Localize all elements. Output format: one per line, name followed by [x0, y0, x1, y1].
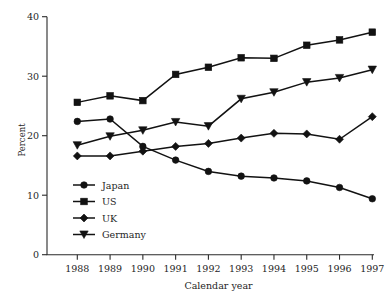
- data-point-uk-1994: [270, 129, 278, 137]
- x-tick-label: 1995: [295, 263, 319, 274]
- series-path: [77, 70, 372, 146]
- data-point-japan-1995: [303, 178, 310, 185]
- legend-marker-japan: [81, 182, 88, 189]
- legend-marker-uk: [80, 214, 88, 222]
- legend-label: Germany: [102, 229, 147, 240]
- data-point-japan-1997: [369, 195, 376, 202]
- x-tick-label: 1992: [196, 263, 220, 274]
- data-point-us-1992: [205, 64, 212, 71]
- series-layer: [73, 29, 376, 202]
- data-point-japan-1994: [271, 175, 278, 182]
- data-point-germany-1988: [73, 142, 81, 150]
- data-point-uk-1993: [237, 134, 245, 142]
- data-point-us-1989: [107, 93, 114, 100]
- data-point-us-1995: [303, 42, 310, 49]
- series-path: [77, 117, 372, 156]
- legend-label: UK: [102, 213, 118, 224]
- data-point-japan-1996: [336, 184, 343, 191]
- data-point-us-1988: [74, 99, 81, 106]
- axis-frame: [47, 17, 374, 255]
- x-tick-label: 1989: [98, 263, 122, 274]
- legend-item-uk[interactable]: UK: [73, 213, 118, 224]
- line-chart: 0102030401988198919901991199219931994199…: [0, 0, 385, 303]
- chart-canvas: 0102030401988198919901991199219931994199…: [0, 0, 385, 303]
- data-point-uk-1995: [303, 130, 311, 138]
- data-point-japan-1991: [172, 157, 179, 164]
- series-uk: [73, 113, 376, 160]
- x-tick-label: 1997: [360, 263, 384, 274]
- data-point-japan-1992: [205, 168, 212, 175]
- data-point-uk-1989: [106, 152, 114, 160]
- y-tick-label: 0: [33, 249, 39, 260]
- legend-item-germany[interactable]: Germany: [73, 229, 147, 240]
- series-germany: [73, 66, 376, 149]
- data-point-uk-1988: [73, 152, 81, 160]
- data-point-us-1991: [172, 71, 179, 78]
- series-us: [74, 29, 376, 106]
- y-tick-label: 20: [27, 130, 39, 141]
- legend-marker-us: [81, 198, 88, 205]
- data-point-us-1994: [271, 55, 278, 62]
- data-point-japan-1988: [74, 118, 81, 125]
- y-axis-title: Percent: [17, 123, 27, 157]
- x-tick-label: 1988: [65, 263, 89, 274]
- data-point-us-1996: [336, 37, 343, 44]
- legend-item-japan[interactable]: Japan: [73, 180, 129, 191]
- x-tick-label: 1996: [327, 263, 351, 274]
- data-point-us-1993: [238, 54, 245, 61]
- legend-label: US: [102, 196, 117, 207]
- data-point-us-1997: [369, 29, 376, 36]
- series-path: [77, 32, 372, 102]
- data-point-uk-1991: [172, 142, 180, 150]
- x-tick-label: 1991: [164, 263, 188, 274]
- data-point-japan-1989: [107, 116, 114, 123]
- x-tick-label: 1993: [229, 263, 253, 274]
- data-point-japan-1993: [238, 173, 245, 180]
- y-tick-label: 40: [27, 11, 39, 22]
- x-tick-label: 1990: [131, 263, 155, 274]
- x-tick-label: 1994: [262, 263, 286, 274]
- data-point-uk-1992: [204, 139, 212, 147]
- y-tick-label: 10: [27, 190, 39, 201]
- legend-label: Japan: [101, 180, 129, 191]
- data-point-us-1990: [140, 97, 147, 104]
- legend: JapanUSUKGermany: [73, 180, 147, 241]
- x-axis-title: Calendar year: [184, 280, 253, 291]
- y-tick-label: 30: [27, 71, 39, 82]
- legend-item-us[interactable]: US: [73, 196, 117, 207]
